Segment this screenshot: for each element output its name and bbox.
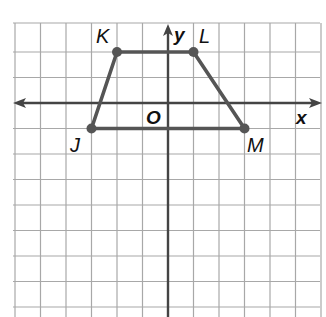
point-label-m: M <box>247 134 264 156</box>
point-label-l: L <box>199 25 210 47</box>
coordinate-plane: x y O K L M J <box>0 0 326 317</box>
point-m <box>240 124 250 134</box>
point-label-j: J <box>69 134 81 156</box>
origin-label: O <box>146 107 161 128</box>
point-l <box>189 47 199 57</box>
y-axis-label: y <box>173 24 186 45</box>
x-axis-label: x <box>295 107 308 128</box>
point-label-k: K <box>96 25 111 47</box>
point-k <box>112 47 122 57</box>
point-j <box>87 124 97 134</box>
axes <box>13 24 322 317</box>
